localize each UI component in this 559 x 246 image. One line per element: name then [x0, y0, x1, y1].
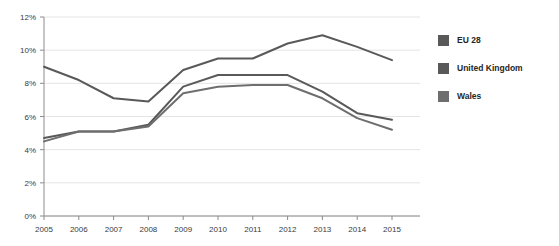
series-line-wales	[44, 85, 392, 141]
series-line-eu-28	[44, 35, 392, 101]
x-axis-tick-label: 2007	[105, 225, 123, 234]
chart-legend: EU 28 United Kingdom Wales	[438, 26, 556, 110]
x-axis-tick-label: 2009	[174, 225, 192, 234]
legend-swatch-icon	[438, 63, 449, 74]
x-axis-tick-label: 2011	[244, 225, 262, 234]
y-axis-tick-label: 2%	[24, 179, 36, 188]
line-chart: 0%2%4%6%8%10%12%200520062007200820092010…	[0, 0, 559, 246]
legend-swatch-icon	[438, 91, 449, 102]
y-axis-tick-label: 10%	[20, 46, 36, 55]
legend-item-wales[interactable]: Wales	[438, 82, 556, 110]
x-axis-tick-label: 2006	[70, 225, 88, 234]
legend-label: EU 28	[457, 35, 481, 45]
x-axis-tick-label: 2015	[383, 225, 401, 234]
legend-swatch-icon	[438, 35, 449, 46]
x-axis-tick-label: 2012	[279, 225, 297, 234]
x-axis-tick-label: 2008	[140, 225, 158, 234]
legend-item-united-kingdom[interactable]: United Kingdom	[438, 54, 556, 82]
y-axis-tick-label: 4%	[24, 146, 36, 155]
x-axis-tick-label: 2005	[35, 225, 53, 234]
y-axis-tick-label: 12%	[20, 13, 36, 22]
legend-label: United Kingdom	[457, 63, 523, 73]
x-axis-tick-label: 2010	[209, 225, 227, 234]
legend-label: Wales	[457, 91, 481, 101]
y-axis-tick-label: 0%	[24, 212, 36, 221]
legend-item-eu28[interactable]: EU 28	[438, 26, 556, 54]
x-axis-tick-label: 2013	[314, 225, 332, 234]
x-axis-tick-label: 2014	[348, 225, 366, 234]
y-axis-tick-label: 8%	[24, 79, 36, 88]
y-axis-tick-label: 6%	[24, 113, 36, 122]
series-line-united-kingdom	[44, 75, 392, 138]
